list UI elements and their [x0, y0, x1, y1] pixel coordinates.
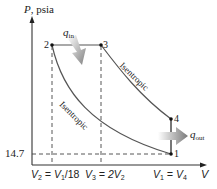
- state-label-3: 3: [103, 40, 108, 50]
- x-tick-v1: V1 = V4: [153, 169, 187, 181]
- state-label-2: 2: [44, 40, 49, 50]
- y-axis-arrow-icon: [30, 16, 35, 23]
- y-tick-14-7: 14.7: [5, 148, 24, 159]
- state-point-4: [169, 117, 173, 121]
- state-label-4: 4: [174, 114, 179, 124]
- pv-diagram: [0, 0, 217, 189]
- y-axis-symbol: P: [24, 3, 31, 15]
- x-tick-v3: V3 = 2V2: [85, 169, 125, 181]
- process-1-2-isentropic: [52, 45, 171, 154]
- heat-out-arrow-icon: [158, 127, 188, 145]
- heat-out-label: qout: [190, 129, 204, 142]
- y-axis-label: P, psia: [24, 4, 54, 15]
- state-point-2: [50, 43, 54, 47]
- x-axis-label: V: [201, 169, 208, 180]
- cycle-processes: [52, 45, 171, 154]
- heat-in-label: qin: [63, 27, 74, 40]
- x-axis: [32, 163, 207, 168]
- y-axis-unit: , psia: [31, 3, 54, 15]
- state-points: [50, 43, 173, 156]
- state-label-1: 1: [174, 149, 179, 159]
- y-axis: [30, 16, 35, 165]
- state-point-1: [169, 152, 173, 156]
- x-axis-arrow-icon: [200, 163, 207, 168]
- x-tick-v2: V2 = V1/18: [31, 169, 79, 181]
